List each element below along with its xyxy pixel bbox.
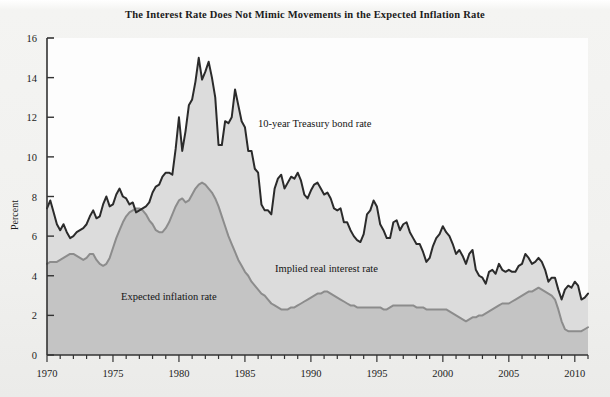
annotation-expected-inflation-rate: Expected inflation rate: [121, 291, 217, 302]
annotation-treasury-bond-rate: 10-year Treasury bond rate: [258, 118, 372, 129]
x-axis-tick-label: 1980: [168, 368, 189, 379]
x-axis-tick-label: 2005: [498, 368, 519, 379]
y-axis-tick-label: 6: [32, 231, 37, 242]
y-axis-tick-label: 12: [27, 112, 38, 123]
chart-figure: The Interest Rate Does Not Mimic Movemen…: [0, 0, 610, 397]
x-axis-tick-label: 2010: [564, 368, 585, 379]
y-axis-tick-label: 14: [27, 73, 38, 84]
x-axis-tick-label: 2000: [432, 368, 453, 379]
chart-svg: 1614121086420197019751980198519901995200…: [0, 0, 610, 397]
plot-area: 1614121086420197019751980198519901995200…: [0, 0, 610, 397]
y-axis-tick-label: 16: [27, 33, 38, 44]
y-axis-tick-label: 10: [27, 152, 38, 163]
y-axis-title: Percent: [9, 200, 20, 230]
x-axis-tick-label: 1975: [102, 368, 123, 379]
y-axis-tick-label: 4: [32, 271, 38, 282]
x-axis-tick-label: 1990: [300, 368, 321, 379]
x-axis-tick-label: 1985: [234, 368, 255, 379]
annotation-implied-real-interest-rate: Implied real interest rate: [275, 263, 378, 274]
y-axis-tick-label: 8: [32, 192, 37, 203]
x-axis-tick-label: 1995: [366, 368, 387, 379]
y-axis-tick-label: 0: [32, 350, 37, 361]
y-axis-tick-label: 2: [32, 310, 37, 321]
x-axis-tick-label: 1970: [37, 368, 58, 379]
